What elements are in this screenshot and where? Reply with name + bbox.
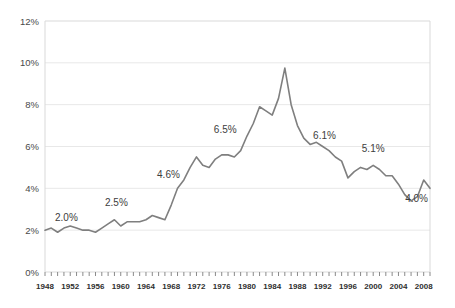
data-annotation-label: 5.1% (362, 143, 385, 154)
data-annotation-label: 2.5% (105, 197, 128, 208)
x-axis-tick-label: 1992 (314, 282, 332, 291)
x-axis-tick-label: 2000 (364, 282, 382, 291)
x-axis-tick-label: 1972 (188, 282, 206, 291)
y-axis-tick-label: 6% (25, 141, 39, 152)
chart-canvas: 0%2%4%6%8%10%12% 19481952195619601964196… (0, 0, 455, 308)
x-axis-tick-label: 1984 (263, 282, 281, 291)
x-axis-tick-label: 1948 (36, 282, 54, 291)
data-annotation-label: 4.6% (157, 169, 180, 180)
x-axis-tick-label: 1960 (112, 282, 130, 291)
x-axis-tick-label: 1988 (289, 282, 307, 291)
x-axis-tick-label: 1996 (339, 282, 357, 291)
x-axis-tick-label: 1976 (213, 282, 231, 291)
x-axis-tick-label: 1964 (137, 282, 155, 291)
data-annotation-label: 6.1% (313, 130, 336, 141)
x-axis-tick-label: 1952 (61, 282, 79, 291)
x-axis-tick-label: 1956 (87, 282, 105, 291)
y-axis-tick-label: 0% (25, 267, 39, 278)
x-axis-tick-label: 2008 (415, 282, 433, 291)
y-axis-tick-label: 8% (25, 99, 39, 110)
data-annotation-label: 2.0% (55, 212, 78, 223)
data-annotation-label: 4.0% (405, 193, 428, 204)
y-axis-tick-label: 12% (20, 16, 40, 27)
x-axis-tickmarks (45, 272, 430, 276)
data-annotation-label: 6.5% (214, 124, 237, 135)
line-chart: 0%2%4%6%8%10%12% 19481952195619601964196… (0, 0, 455, 308)
x-axis-tick-label: 1980 (238, 282, 256, 291)
x-axis-tick-label: 2004 (390, 282, 408, 291)
y-axis-tick-label: 2% (25, 225, 39, 236)
x-axis-tick-label: 1968 (162, 282, 180, 291)
y-axis-tick-label: 4% (25, 183, 39, 194)
x-axis-labels: 1948195219561960196419681972197619801984… (36, 282, 433, 291)
y-axis-labels: 0%2%4%6%8%10%12% (20, 16, 40, 278)
y-axis-tick-label: 10% (20, 57, 40, 68)
